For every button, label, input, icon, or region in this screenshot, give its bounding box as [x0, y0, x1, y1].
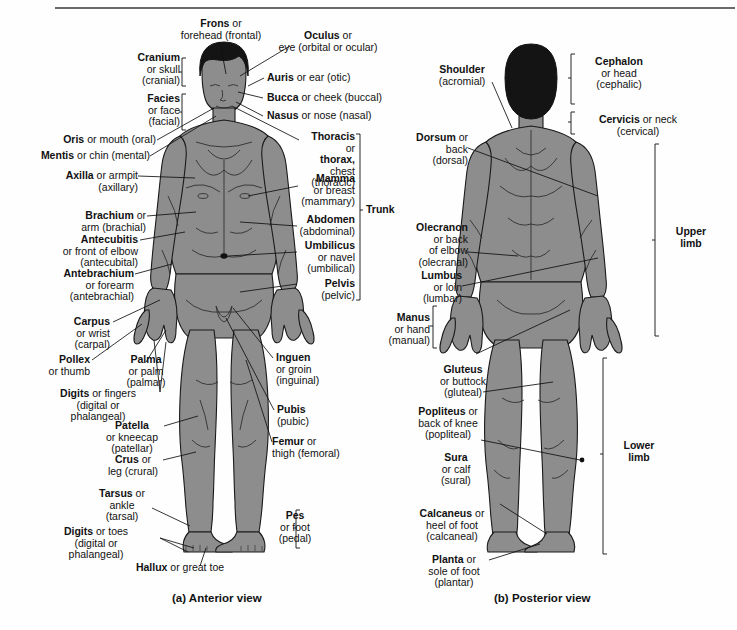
label-auris: Auris or ear (otic) — [267, 72, 407, 84]
label-lumbus: Lumbus or loin (lumbar) — [394, 270, 462, 305]
label-pollex: Pollex or thumb — [24, 354, 90, 377]
caption-posterior-view: (b) Posterior view — [494, 592, 591, 604]
anatomical-regions-diagram: Frons or forehead (frontal) Oculus or ey… — [0, 0, 737, 630]
label-sura: Sura or calf (sural) — [418, 452, 494, 487]
label-pubis: Pubis (pubic) — [277, 404, 357, 427]
label-calcaneus: Calcaneus or heel of foot (calcaneal) — [400, 508, 504, 543]
label-facies: Facies or face (facial) — [84, 93, 180, 128]
bracket-label-trunk: Trunk — [366, 204, 395, 216]
label-mentis: Mentis or chin (mental) — [26, 150, 150, 162]
label-digits-foot: Digits or toes (digital or phalangeal) — [34, 526, 158, 561]
caption-anterior-view: (a) Anterior view — [172, 592, 262, 604]
label-planta: Planta or sole of foot (plantar) — [406, 554, 502, 589]
label-shoulder: Shoulder (acromial) — [418, 64, 506, 87]
label-cervicis: Cervicis or neck (cervical) — [578, 114, 698, 137]
bracket-label-lower-limb: Lower limb — [612, 440, 666, 463]
label-gluteus: Gluteus or buttock (gluteal) — [420, 364, 506, 399]
label-oculus: Oculus or eye (orbital or ocular) — [250, 30, 406, 53]
label-nasus: Nasus or nose (nasal) — [267, 110, 427, 122]
label-digits-hand: Digits or fingers (digital or phalangeal… — [36, 388, 160, 423]
label-cranium: Cranium or skull (cranial) — [76, 52, 180, 87]
label-crus: Crus or leg (crural) — [98, 454, 168, 477]
label-carpus: Carpus or wrist (carpal) — [30, 316, 110, 351]
label-umbilicus: Umbilicus or navel (umbilical) — [297, 240, 355, 275]
label-manus: Manus or hand (manual) — [364, 312, 430, 347]
bracket-label-upper-limb: Upper limb — [664, 226, 718, 249]
label-pes: Pes or foot (pedal) — [265, 510, 325, 545]
label-olecranon: Olecranon or back of elbow (olecranal) — [390, 222, 468, 268]
label-hallux: Hallux or great toe — [110, 562, 250, 574]
label-pelvis: Pelvis (pelvic) — [299, 278, 355, 301]
label-patella: Patella or kneecap (patellar) — [96, 420, 168, 455]
label-brachium: Brachium or arm (brachial) — [34, 210, 146, 233]
label-femur: Femur or thigh (femoral) — [272, 436, 364, 459]
label-bucca: Bucca or cheek (buccal) — [267, 92, 427, 104]
label-popliteus: Popliteus or back of knee (popliteal) — [398, 406, 498, 441]
label-oris: Oris or mouth (oral) — [36, 134, 156, 146]
label-dorsum: Dorsum or back (dorsal) — [396, 132, 468, 167]
label-antecubitis: Antecubitis or front of elbow (antecubit… — [16, 234, 138, 269]
label-palma: Palma or palm (palmar) — [110, 354, 182, 389]
label-antebrachium: Antebrachium or forearm (antebrachial) — [14, 268, 134, 303]
label-abdomen: Abdomen (abdominal) — [299, 214, 355, 237]
label-axilla: Axilla or armpit (axillary) — [30, 170, 138, 193]
label-tarsus: Tarsus or ankle (tarsal) — [88, 488, 156, 523]
label-inguen: Inguen or groin (inguinal) — [276, 352, 366, 387]
label-mamma: Mamma or breast (mammary) — [300, 173, 355, 208]
label-cephalon: Cephalon or head (cephalic) — [578, 56, 660, 91]
